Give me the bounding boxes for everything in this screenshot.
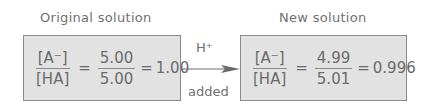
right-arrow-icon <box>181 63 240 75</box>
original-equation: [A⁻] [HA] = 5.00 5.00 = 1.00 <box>24 36 180 100</box>
ratio-fraction: [A⁻] [HA] <box>34 49 71 88</box>
arrow-top-label: H⁺ <box>196 40 213 55</box>
equals-sign: = <box>357 59 370 77</box>
value-numerator: 5.00 <box>98 49 135 69</box>
original-solution-box: [A⁻] [HA] = 5.00 5.00 = 1.00 <box>23 35 181 101</box>
equals-sign: = <box>295 59 308 77</box>
value-denominator: 5.00 <box>98 69 135 88</box>
result-value: 0.996 <box>373 59 416 77</box>
ratio-numerator: [A⁻] <box>36 49 70 69</box>
ratio-denominator: [HA] <box>251 69 288 88</box>
ratio-denominator: [HA] <box>34 69 71 88</box>
equals-sign: = <box>140 59 153 77</box>
equals-sign: = <box>78 59 91 77</box>
new-equation: [A⁻] [HA] = 4.99 5.01 = 0.996 <box>241 36 406 100</box>
ratio-numerator: [A⁻] <box>253 49 287 69</box>
new-solution-box: [A⁻] [HA] = 4.99 5.01 = 0.996 <box>240 35 407 101</box>
value-denominator: 5.01 <box>315 69 352 88</box>
value-fraction: 5.00 5.00 <box>98 49 135 88</box>
new-solution-title: New solution <box>279 10 367 25</box>
arrow-bottom-label: added <box>188 84 229 99</box>
ratio-fraction: [A⁻] [HA] <box>251 49 288 88</box>
value-numerator: 4.99 <box>315 49 352 69</box>
value-fraction: 4.99 5.01 <box>315 49 352 88</box>
original-solution-title: Original solution <box>40 10 152 25</box>
